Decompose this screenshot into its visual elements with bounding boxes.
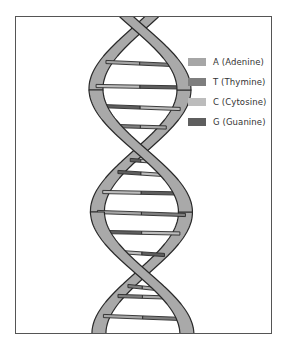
base-C-left [96, 84, 140, 88]
legend-item-cytosine: C (Cytosine) [188, 92, 266, 112]
legend: A (Adenine) T (Thymine) C (Cytosine) G (… [188, 52, 266, 132]
strand-segment [176, 335, 194, 351]
base-A-right [140, 125, 166, 129]
legend-item-adenine: A (Adenine) [188, 52, 266, 72]
thymine-swatch [188, 78, 206, 86]
legend-label: A (Adenine) [213, 57, 264, 67]
legend-label: C (Cytosine) [213, 97, 266, 107]
cytosine-swatch [188, 98, 206, 106]
strand-segment [92, 335, 110, 351]
base-C-left [103, 190, 141, 194]
legend-item-thymine: T (Thymine) [188, 72, 266, 92]
guanine-swatch [188, 118, 206, 126]
base-C-right [142, 231, 180, 235]
legend-label: T (Thymine) [213, 77, 266, 87]
adenine-swatch [188, 58, 206, 66]
legend-item-guanine: G (Guanine) [188, 112, 266, 132]
base-G-left [130, 158, 141, 162]
base-T-left [118, 294, 142, 298]
legend-label: G (Guanine) [213, 117, 266, 127]
